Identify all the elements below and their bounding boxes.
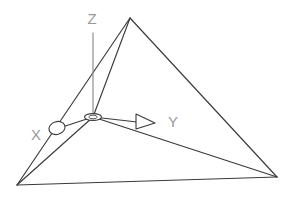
z-axis-label: Z — [87, 10, 96, 27]
x-axis-arrowhead-icon — [47, 119, 67, 136]
edge-bottomleft-right — [17, 177, 277, 185]
origin-marker-inner-icon — [89, 115, 97, 119]
y-axis-arrowhead-icon — [136, 114, 155, 129]
y-axis-label: Y — [168, 113, 178, 130]
edge-apex-bottomleft — [17, 18, 130, 185]
tetrahedron-edges — [17, 18, 277, 185]
x-axis-label: X — [31, 126, 41, 143]
figure-canvas: Z X Y — [0, 0, 287, 200]
tetrahedron-axes-diagram: Z X Y — [0, 0, 287, 200]
edge-apex-origin — [93, 18, 130, 117]
